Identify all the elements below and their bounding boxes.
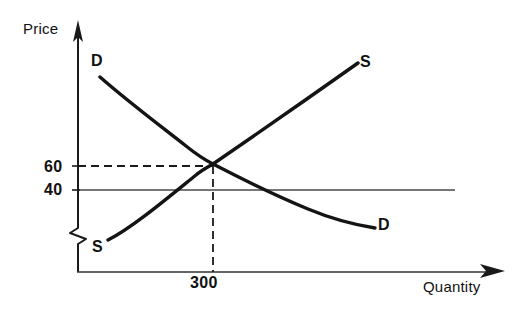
supply-curve-label-bottom: S	[92, 239, 103, 255]
x-axis-title: Quantity	[423, 279, 480, 294]
x-axis-arrow-icon	[480, 264, 505, 278]
x-tick-label-300: 300	[190, 275, 218, 291]
supply-demand-chart: Price Quantity 60 40 300 D D S S	[0, 0, 528, 316]
chart-canvas	[0, 0, 528, 316]
y-tick-label-60: 60	[44, 159, 62, 175]
demand-curve	[100, 77, 375, 228]
supply-curve-label-top: S	[360, 54, 371, 70]
y-axis-title: Price	[23, 21, 58, 36]
y-tick-label-40: 40	[44, 182, 62, 198]
demand-curve-label-top: D	[91, 53, 103, 69]
demand-curve-label-bottom: D	[378, 217, 390, 233]
y-axis-break-icon	[70, 228, 86, 244]
